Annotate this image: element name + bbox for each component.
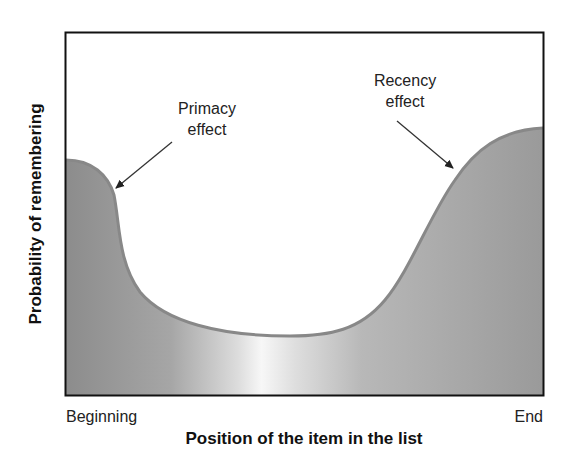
recency-label-line2: effect bbox=[360, 91, 450, 112]
recall-area-fill bbox=[66, 128, 543, 395]
recency-arrow-icon bbox=[397, 121, 453, 168]
primacy-label-line2: effect bbox=[162, 119, 252, 140]
primacy-arrow-icon bbox=[116, 142, 172, 188]
x-tick-beginning: Beginning bbox=[66, 408, 137, 426]
recency-label-line1: Recency bbox=[360, 70, 450, 91]
plot-area bbox=[66, 33, 544, 396]
primacy-label-line1: Primacy bbox=[162, 98, 252, 119]
serial-position-curve-chart bbox=[0, 0, 578, 464]
primacy-effect-annotation: Primacy effect bbox=[162, 98, 252, 140]
y-axis-label: Probability of remembering bbox=[26, 103, 46, 324]
x-tick-end: End bbox=[515, 408, 543, 426]
x-axis-label: Position of the item in the list bbox=[185, 429, 422, 449]
recency-effect-annotation: Recency effect bbox=[360, 70, 450, 112]
